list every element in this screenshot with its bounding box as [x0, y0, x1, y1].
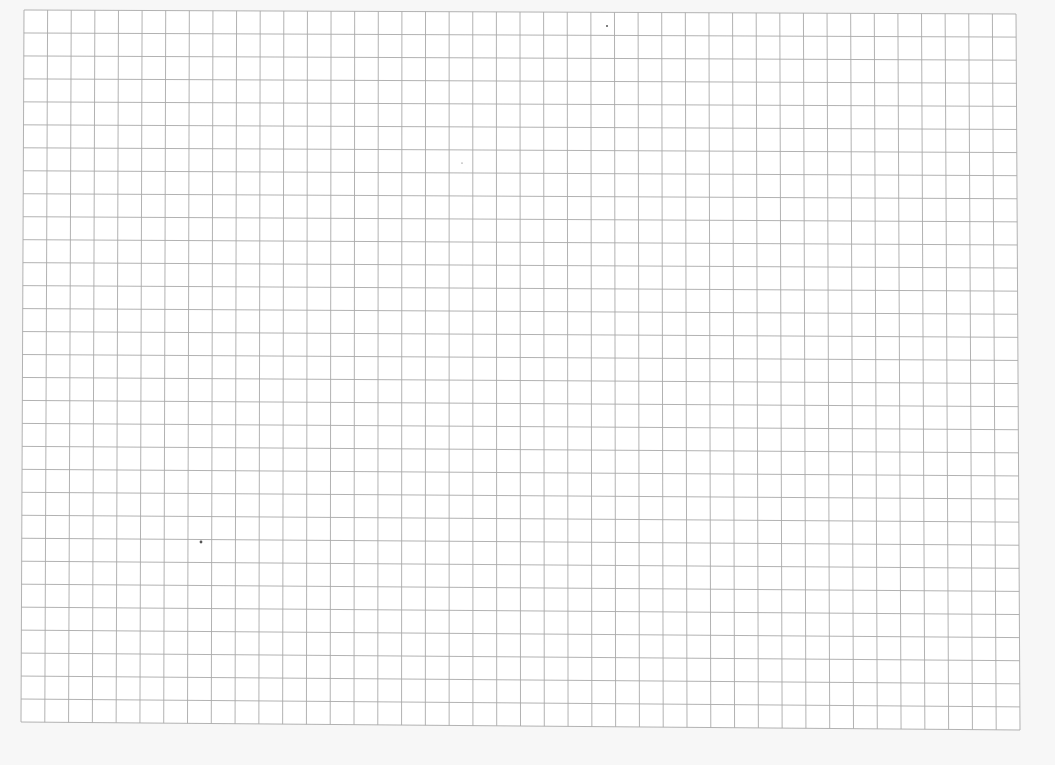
- speck: [461, 162, 462, 163]
- speck: [200, 541, 203, 544]
- speck: [606, 25, 608, 27]
- grid-canvas: [0, 0, 1055, 765]
- vertical-grid-line: [378, 11, 379, 724]
- vertical-grid-line: [520, 12, 521, 726]
